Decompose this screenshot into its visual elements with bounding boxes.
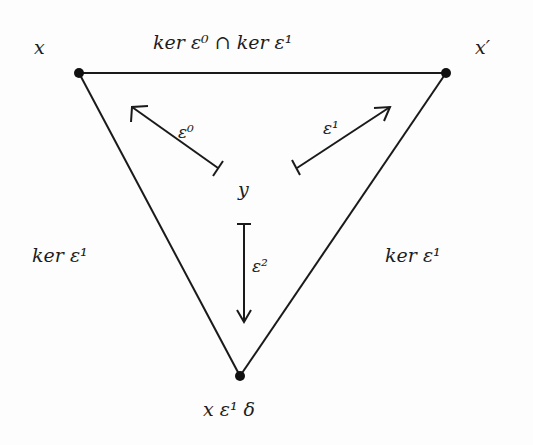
edge-right [240,73,446,376]
edge-label-right: ker ε¹ [385,246,441,265]
vertex-label-x-prime: x′ [475,38,490,57]
vertex-dot-top-left [74,68,84,78]
arrow-label-eps0: ε⁰ [178,124,194,141]
vertex-label-bottom: x ε¹ δ [203,400,255,419]
center-label-y: y [238,180,249,199]
arrow-eps2 [237,224,251,322]
edge-left [79,73,240,376]
arrow-label-eps2: ε² [252,258,268,275]
diagram-canvas: x x′ x ε¹ δ ker ε⁰ ∩ ker ε¹ ker ε¹ ker ε… [0,0,533,445]
arrow-eps1 [292,107,390,175]
vertex-dot-bottom [235,371,245,381]
edge-label-top: ker ε⁰ ∩ ker ε¹ [153,33,292,52]
arrow-eps0 [131,106,223,176]
vertex-label-x: x [34,38,45,57]
triangle-diagram [0,0,533,445]
arrow-label-eps1: ε¹ [323,120,339,137]
edge-label-left: ker ε¹ [32,246,88,265]
vertex-dot-top-right [441,68,451,78]
